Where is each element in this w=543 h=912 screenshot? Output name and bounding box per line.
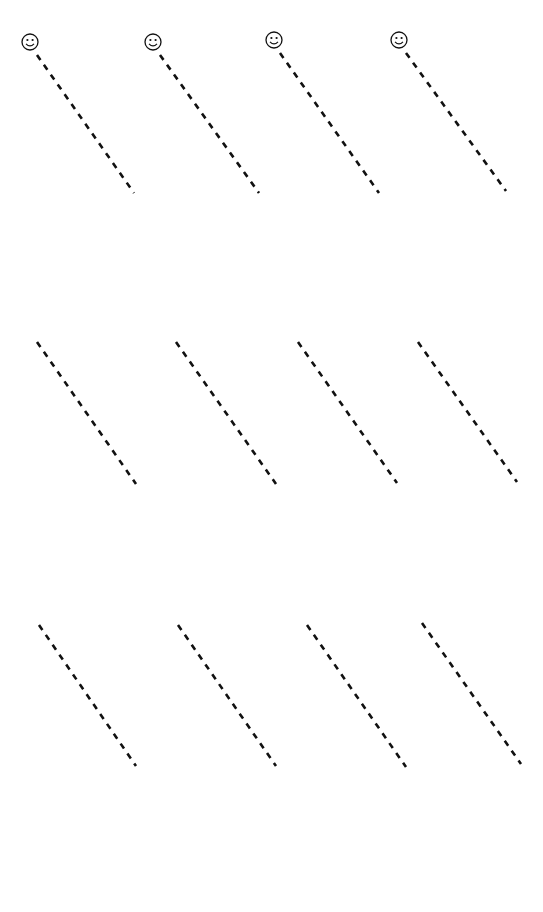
dashed-line — [176, 342, 276, 484]
smiley-face-icon — [145, 34, 161, 50]
dashed-path-item — [37, 342, 136, 484]
dashed-line-diagram — [0, 0, 543, 912]
dashed-line — [422, 623, 521, 764]
dashed-path-item — [39, 625, 136, 766]
smiley-face-icon — [391, 32, 407, 48]
dashed-path-item — [298, 342, 397, 483]
dashed-line — [39, 625, 136, 766]
dashed-line — [178, 625, 276, 766]
dashed-path-item — [418, 342, 517, 482]
dashed-path-item — [422, 623, 521, 764]
row-1 — [22, 32, 506, 193]
dashed-path-item — [22, 34, 134, 193]
dashed-line — [406, 53, 506, 191]
dashed-line — [160, 55, 259, 193]
row-3 — [39, 623, 521, 767]
dashed-line — [37, 342, 136, 484]
dashed-path-item — [176, 342, 276, 484]
dashed-line — [298, 342, 397, 483]
smiley-face-icon — [22, 34, 38, 50]
smiley-face-icon — [266, 32, 282, 48]
dashed-path-item — [391, 32, 506, 191]
dashed-line — [307, 625, 406, 767]
dashed-path-item — [266, 32, 379, 193]
dashed-path-item — [178, 625, 276, 766]
dashed-line — [280, 53, 379, 193]
dashed-line — [418, 342, 517, 482]
row-2 — [37, 342, 517, 484]
dashed-line — [37, 55, 134, 193]
dashed-path-item — [145, 34, 259, 193]
dashed-path-item — [307, 625, 406, 767]
